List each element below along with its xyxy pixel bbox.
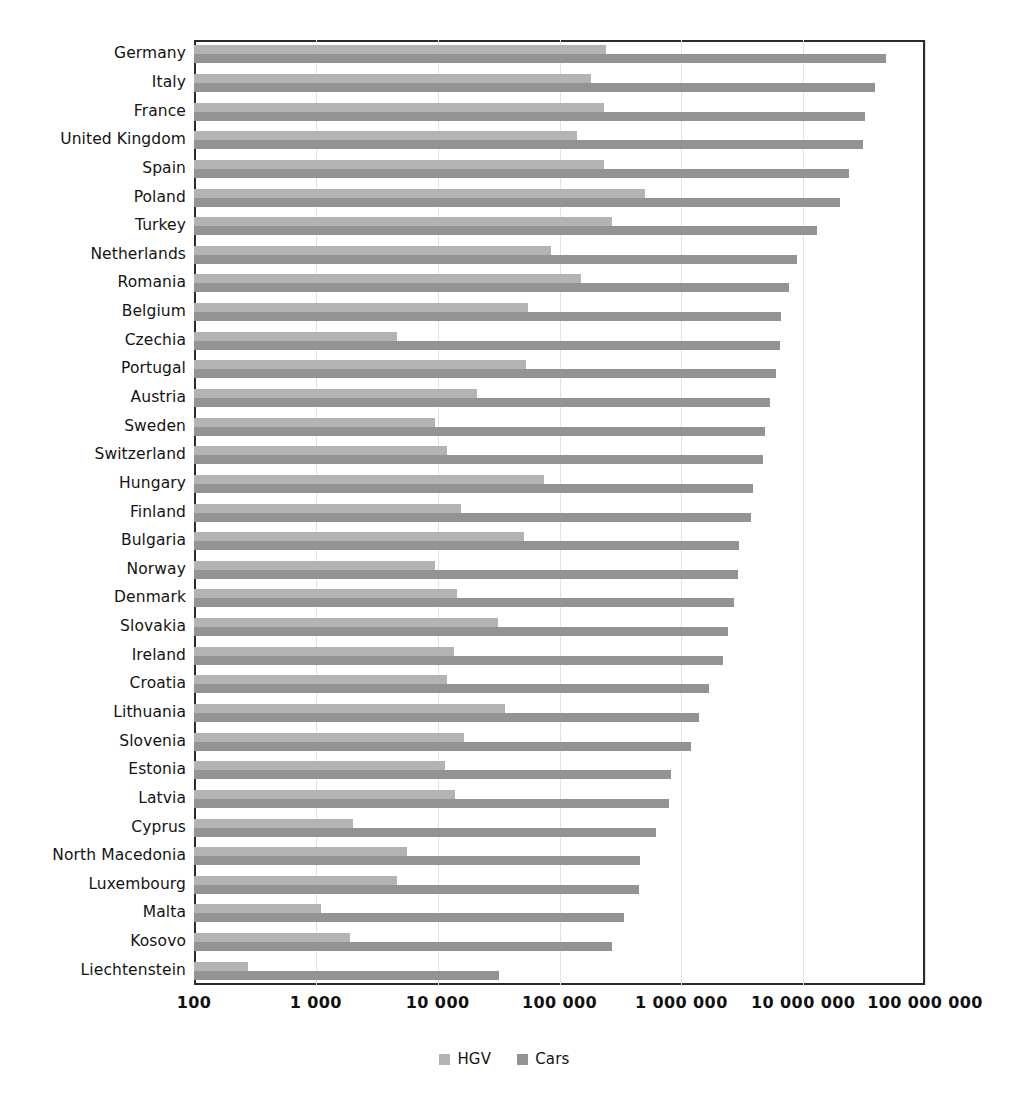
bar-cars xyxy=(194,942,612,951)
chart-legend: HGVCars xyxy=(0,1050,1009,1068)
bar-hgv xyxy=(194,360,526,369)
category-label: Belgium xyxy=(0,303,186,319)
category-label: Netherlands xyxy=(0,246,186,262)
x-tick-label: 1 000 000 xyxy=(635,993,728,1012)
bar-cars xyxy=(194,656,723,665)
bar-chart: GermanyItalyFranceUnited KingdomSpainPol… xyxy=(0,0,1009,1100)
bar-hgv xyxy=(194,962,248,971)
category-label: North Macedonia xyxy=(0,847,186,863)
bar-hgv xyxy=(194,761,445,770)
x-tick-label: 1 000 xyxy=(290,993,342,1012)
bar-cars xyxy=(194,140,863,149)
category-label: France xyxy=(0,103,186,119)
category-label: Luxembourg xyxy=(0,876,186,892)
bar-hgv xyxy=(194,647,454,656)
bar-hgv xyxy=(194,45,606,54)
category-label: Germany xyxy=(0,45,186,61)
bar-cars xyxy=(194,226,817,235)
category-label: Croatia xyxy=(0,675,186,691)
category-label: Romania xyxy=(0,274,186,290)
bar-hgv xyxy=(194,332,397,341)
category-axis-labels: GermanyItalyFranceUnited KingdomSpainPol… xyxy=(0,40,186,985)
x-tick-label: 10 000 000 xyxy=(751,993,855,1012)
legend-label: Cars xyxy=(535,1050,569,1068)
legend-swatch-icon xyxy=(439,1054,450,1065)
bar-hgv xyxy=(194,246,551,255)
bar-cars xyxy=(194,913,624,922)
category-label: Portugal xyxy=(0,360,186,376)
category-label: Cyprus xyxy=(0,819,186,835)
category-label: Denmark xyxy=(0,589,186,605)
category-label: Spain xyxy=(0,160,186,176)
bar-cars xyxy=(194,598,734,607)
bar-hgv xyxy=(194,819,353,828)
bar-cars xyxy=(194,369,776,378)
bar-hgv xyxy=(194,504,461,513)
bar-hgv xyxy=(194,675,447,684)
bar-cars xyxy=(194,112,865,121)
bar-hgv xyxy=(194,876,397,885)
bar-cars xyxy=(194,54,886,63)
category-label: Latvia xyxy=(0,790,186,806)
category-label: Malta xyxy=(0,904,186,920)
category-label: Slovenia xyxy=(0,733,186,749)
bar-hgv xyxy=(194,475,544,484)
category-label: Italy xyxy=(0,74,186,90)
category-label: Turkey xyxy=(0,217,186,233)
bar-cars xyxy=(194,198,840,207)
x-tick-label: 10 000 xyxy=(406,993,470,1012)
bar-cars xyxy=(194,169,849,178)
x-tick-label: 100 xyxy=(177,993,212,1012)
bar-rows xyxy=(194,40,925,985)
legend-item-cars[interactable]: Cars xyxy=(517,1050,569,1068)
category-label: Kosovo xyxy=(0,933,186,949)
category-label: Ireland xyxy=(0,647,186,663)
gridline xyxy=(925,40,926,985)
legend-item-hgv[interactable]: HGV xyxy=(439,1050,491,1068)
bar-cars xyxy=(194,83,875,92)
bar-hgv xyxy=(194,274,581,283)
bar-cars xyxy=(194,398,770,407)
bar-hgv xyxy=(194,589,457,598)
bar-hgv xyxy=(194,74,591,83)
category-label: Austria xyxy=(0,389,186,405)
bar-cars xyxy=(194,341,780,350)
x-tick-label: 100 000 xyxy=(522,993,597,1012)
bar-hgv xyxy=(194,733,464,742)
x-axis-tick-labels: 1001 00010 000100 0001 000 00010 000 000… xyxy=(194,993,925,1021)
bar-cars xyxy=(194,684,709,693)
bar-cars xyxy=(194,742,691,751)
bar-hgv xyxy=(194,303,528,312)
category-label: Norway xyxy=(0,561,186,577)
bar-hgv xyxy=(194,704,505,713)
x-tick-label: 100 000 000 xyxy=(867,993,983,1012)
category-label: Liechtenstein xyxy=(0,962,186,978)
bar-hgv xyxy=(194,103,604,112)
bar-hgv xyxy=(194,532,524,541)
category-label: Poland xyxy=(0,189,186,205)
bar-hgv xyxy=(194,618,498,627)
bar-hgv xyxy=(194,446,447,455)
category-label: Slovakia xyxy=(0,618,186,634)
bar-hgv xyxy=(194,389,477,398)
category-label: United Kingdom xyxy=(0,131,186,147)
category-label: Finland xyxy=(0,504,186,520)
bar-cars xyxy=(194,856,640,865)
bar-hgv xyxy=(194,904,321,913)
bar-cars xyxy=(194,828,656,837)
bar-cars xyxy=(194,283,789,292)
category-label: Czechia xyxy=(0,332,186,348)
bar-hgv xyxy=(194,847,407,856)
bar-cars xyxy=(194,713,699,722)
bar-hgv xyxy=(194,561,435,570)
bar-cars xyxy=(194,885,639,894)
bar-cars xyxy=(194,570,738,579)
bar-hgv xyxy=(194,418,435,427)
bar-cars xyxy=(194,513,751,522)
legend-swatch-icon xyxy=(517,1054,528,1065)
bar-hgv xyxy=(194,790,455,799)
bar-cars xyxy=(194,971,499,980)
bar-cars xyxy=(194,770,671,779)
bar-hgv xyxy=(194,160,604,169)
category-label: Lithuania xyxy=(0,704,186,720)
